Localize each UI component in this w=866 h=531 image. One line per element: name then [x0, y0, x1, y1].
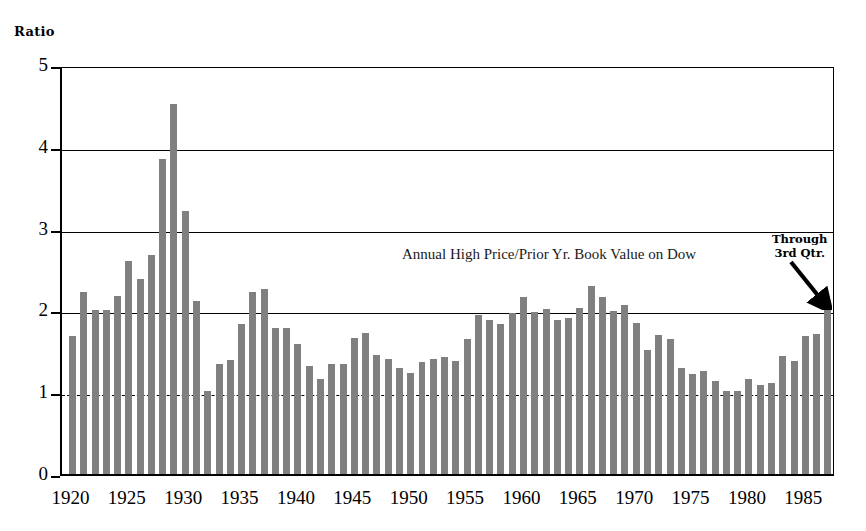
- bar-1949: [396, 368, 403, 474]
- bar-1956: [475, 315, 482, 475]
- bar-1966: [588, 286, 595, 474]
- x-axis-label-1935: 1935: [221, 487, 259, 509]
- bar-1922: [92, 310, 99, 474]
- x-axis-label-1970: 1970: [615, 487, 653, 509]
- bar-1967: [599, 297, 606, 475]
- x-axis-label-1930: 1930: [164, 487, 202, 509]
- bar-1947: [373, 355, 380, 474]
- y-tick-1: [51, 394, 60, 396]
- y-axis-label-1: 1: [14, 381, 48, 403]
- bar-1982: [768, 383, 775, 474]
- bar-1933: [216, 364, 223, 474]
- bar-1920: [69, 336, 76, 474]
- bar-1950: [407, 373, 414, 474]
- bar-1986: [813, 334, 820, 474]
- bar-1934: [227, 360, 234, 474]
- y-axis-label-5: 5: [14, 54, 48, 76]
- bar-1948: [385, 359, 392, 474]
- bar-1959: [509, 313, 516, 474]
- bar-1946: [362, 333, 369, 475]
- bar-1987: [824, 310, 831, 474]
- x-axis-label-1975: 1975: [672, 487, 710, 509]
- x-axis-label-1960: 1960: [502, 487, 540, 509]
- x-axis-label-1925: 1925: [108, 487, 146, 509]
- bar-1936: [249, 292, 256, 474]
- bar-1984: [791, 361, 798, 474]
- y-axis-label-2: 2: [14, 299, 48, 321]
- bar-1980: [745, 379, 752, 474]
- bar-1960: [520, 297, 527, 474]
- bar-1921: [80, 292, 87, 474]
- bar-1929: [170, 104, 177, 474]
- bar-1975: [689, 374, 696, 474]
- bar-1926: [137, 279, 144, 474]
- y-axis-label-3: 3: [14, 218, 48, 240]
- bar-1952: [430, 359, 437, 474]
- bar-1978: [723, 391, 730, 474]
- y-axis-caption: Ratio: [14, 24, 55, 39]
- bar-1954: [452, 361, 459, 474]
- bar-1932: [204, 391, 211, 474]
- bar-1965: [576, 308, 583, 474]
- bar-1979: [734, 391, 741, 474]
- bar-1971: [644, 350, 651, 474]
- annotation-line-1: Through: [772, 232, 827, 246]
- bar-1927: [148, 255, 155, 474]
- bar-1969: [621, 305, 628, 474]
- bar-1943: [328, 364, 335, 474]
- plot-area: Annual High Price/Prior Yr. Book Value o…: [60, 67, 834, 476]
- bar-1953: [441, 357, 448, 474]
- bar-1941: [306, 366, 313, 474]
- bar-series: [62, 68, 833, 474]
- annotation-through-3rd-qtr: Through 3rd Qtr.: [772, 232, 827, 260]
- bar-1944: [340, 364, 347, 474]
- bar-1958: [497, 324, 504, 474]
- x-axis-label-1965: 1965: [559, 487, 597, 509]
- y-axis-label-4: 4: [14, 136, 48, 158]
- x-axis-label-1940: 1940: [277, 487, 315, 509]
- bar-1931: [193, 301, 200, 474]
- bar-1972: [655, 335, 662, 474]
- y-tick-2: [51, 312, 60, 314]
- bar-1981: [757, 385, 764, 474]
- bar-1930: [182, 211, 189, 474]
- y-tick-5: [51, 67, 60, 69]
- annotation-line-2: 3rd Qtr.: [772, 246, 827, 260]
- y-tick-0: [51, 476, 60, 478]
- bar-1983: [779, 356, 786, 474]
- x-axis-label-1980: 1980: [728, 487, 766, 509]
- y-tick-3: [51, 231, 60, 233]
- bar-1935: [238, 324, 245, 474]
- chart-title: Annual High Price/Prior Yr. Book Value o…: [402, 246, 696, 263]
- chart-container: Ratio Annual High Price/Prior Yr. Book V…: [0, 0, 866, 531]
- y-tick-4: [51, 149, 60, 151]
- bar-1964: [565, 318, 572, 474]
- x-axis-label-1950: 1950: [390, 487, 428, 509]
- bar-1973: [667, 339, 674, 474]
- bar-1970: [633, 323, 640, 474]
- bar-1923: [103, 310, 110, 474]
- x-axis-label-1945: 1945: [333, 487, 371, 509]
- bar-1937: [261, 289, 268, 474]
- bar-1942: [317, 379, 324, 474]
- bar-1924: [114, 296, 121, 474]
- bar-1938: [272, 328, 279, 474]
- bar-1962: [543, 309, 550, 474]
- bar-1945: [351, 338, 358, 474]
- bar-1951: [419, 362, 426, 474]
- bar-1939: [283, 328, 290, 474]
- bar-1968: [610, 311, 617, 474]
- x-axis-label-1955: 1955: [446, 487, 484, 509]
- bar-1940: [294, 344, 301, 474]
- bar-1985: [802, 336, 809, 474]
- y-axis-label-0: 0: [14, 463, 48, 485]
- bar-1977: [712, 381, 719, 474]
- bar-1976: [700, 371, 707, 474]
- bar-1955: [464, 339, 471, 474]
- bar-1928: [159, 159, 166, 474]
- bar-1961: [531, 312, 538, 474]
- bar-1925: [125, 261, 132, 474]
- x-axis-label-1985: 1985: [784, 487, 822, 509]
- bar-1974: [678, 368, 685, 474]
- bar-1957: [486, 320, 493, 474]
